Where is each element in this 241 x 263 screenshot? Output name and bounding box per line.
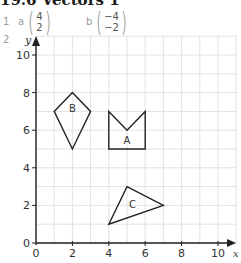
y-tick-label: 8 [23, 87, 30, 100]
y-tick-label: 6 [23, 124, 30, 137]
shape-label-c: C [129, 199, 136, 210]
y-axis-arrow-icon [32, 36, 40, 46]
y-tick-label: 2 [23, 199, 30, 212]
y-tick-label: 4 [23, 162, 30, 175]
shape-label-b: B [69, 103, 76, 114]
y-tick-label: 0 [23, 237, 30, 250]
x-tick-label: 8 [178, 247, 185, 260]
y-tick-label: 10 [16, 49, 30, 62]
x-tick-label: 6 [142, 247, 149, 260]
coordinate-grid: xy02468100246810ABC [0, 0, 241, 263]
x-tick-label: 10 [211, 247, 225, 260]
x-tick-label: 0 [33, 247, 40, 260]
y-axis-label: y [24, 34, 32, 47]
shape-label-a: A [124, 135, 131, 146]
x-axis-arrow-icon [227, 239, 236, 247]
x-axis-label: x [233, 248, 239, 259]
x-tick-label: 4 [105, 247, 112, 260]
x-tick-label: 2 [69, 247, 76, 260]
